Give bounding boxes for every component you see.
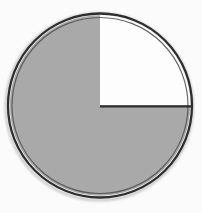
pie-slice-unshaded bbox=[100, 15, 190, 105]
pie-chart-figure bbox=[0, 0, 202, 213]
pie-chart-svg bbox=[0, 0, 202, 213]
